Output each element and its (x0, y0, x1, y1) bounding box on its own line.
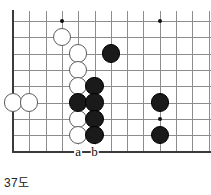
white-stone[interactable] (20, 93, 38, 111)
grid-line-horizontal (13, 135, 211, 136)
grid-line-horizontal (13, 37, 211, 38)
grid-line-vertical (111, 11, 112, 151)
grid-line-vertical (209, 11, 210, 151)
grid-line-vertical (176, 11, 177, 151)
grid-line-vertical (192, 11, 193, 151)
grid-line-vertical (29, 11, 30, 151)
black-stone[interactable] (151, 126, 169, 144)
grid-line-horizontal (13, 103, 211, 104)
board-edge-left (12, 10, 14, 151)
grid-line-vertical (46, 11, 47, 151)
white-stone[interactable] (53, 28, 71, 46)
black-stone[interactable] (102, 44, 120, 62)
grid-line-horizontal (13, 70, 211, 71)
grid-line-vertical (143, 11, 144, 151)
grid-line-horizontal (13, 21, 211, 22)
figure-caption: 37도 (4, 176, 29, 190)
star-point (158, 19, 162, 23)
grid-line-horizontal (13, 119, 211, 120)
black-stone[interactable] (85, 93, 103, 111)
point-label-b[interactable]: b (90, 145, 99, 158)
grid-line-vertical (127, 11, 128, 151)
black-stone[interactable] (85, 126, 103, 144)
star-point (60, 19, 64, 23)
board-edge-bottom (12, 151, 211, 153)
grid-line-horizontal (13, 86, 211, 87)
go-diagram-figure: ab 37도 (0, 0, 211, 195)
star-point (158, 117, 162, 121)
go-board[interactable]: ab (0, 0, 211, 172)
black-stone[interactable] (151, 93, 169, 111)
point-label-a[interactable]: a (74, 145, 82, 158)
